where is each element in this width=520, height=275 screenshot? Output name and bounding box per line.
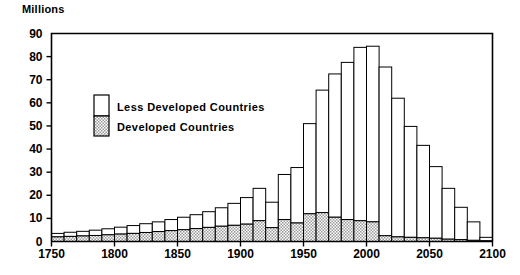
bar-1880 xyxy=(215,208,228,242)
bar-1780 xyxy=(89,230,102,241)
y-tick-label-50: 50 xyxy=(13,121,43,131)
bar-2050 xyxy=(430,167,443,242)
bar-segment-less-developed-1760 xyxy=(64,232,77,236)
bar-segment-less-developed-1950 xyxy=(304,124,317,214)
bar-1860 xyxy=(190,215,203,242)
bar-1960 xyxy=(316,90,329,241)
bar-segment-developed-1860 xyxy=(190,229,203,242)
bar-segment-less-developed-1880 xyxy=(215,208,228,226)
bar-1750 xyxy=(52,233,65,241)
bar-segment-less-developed-1830 xyxy=(152,222,165,232)
bars-group xyxy=(52,46,493,241)
bar-segment-developed-1850 xyxy=(178,230,191,242)
bar-segment-less-developed-1780 xyxy=(89,230,102,235)
x-tick-label-1850: 1850 xyxy=(155,248,201,260)
bar-segment-less-developed-2060 xyxy=(442,188,455,239)
bar-segment-developed-1810 xyxy=(127,233,140,241)
x-tick-label-1950: 1950 xyxy=(281,248,327,260)
bar-1830 xyxy=(152,222,165,242)
bar-segment-less-developed-1920 xyxy=(266,202,279,227)
bar-segment-less-developed-1850 xyxy=(178,217,191,229)
bar-2040 xyxy=(417,145,430,241)
bar-segment-developed-1950 xyxy=(304,214,317,242)
bar-1910 xyxy=(253,188,266,241)
bar-segment-developed-1790 xyxy=(102,235,115,242)
plot-area xyxy=(0,0,520,275)
bar-segment-less-developed-1750 xyxy=(52,233,65,236)
chart-figure: Millions 0102030405060708090 17501800185… xyxy=(0,0,520,275)
bar-2000 xyxy=(367,46,380,241)
bar-segment-less-developed-1800 xyxy=(115,227,128,234)
y-tick-label-60: 60 xyxy=(13,98,43,108)
y-tick-label-80: 80 xyxy=(13,52,43,62)
bar-2010 xyxy=(379,67,392,241)
bar-2080 xyxy=(467,222,480,242)
bar-segment-developed-1800 xyxy=(115,234,128,241)
x-tick-label-1800: 1800 xyxy=(92,248,138,260)
bar-1810 xyxy=(127,226,140,242)
bar-segment-developed-1780 xyxy=(89,235,102,241)
bar-segment-less-developed-2050 xyxy=(430,167,443,239)
bar-segment-less-developed-1990 xyxy=(354,47,367,220)
bar-segment-less-developed-1790 xyxy=(102,229,115,235)
bar-segment-less-developed-1810 xyxy=(127,226,140,234)
bar-1980 xyxy=(341,62,354,241)
legend-swatch xyxy=(92,94,116,142)
bar-1870 xyxy=(203,212,216,242)
bar-segment-developed-1900 xyxy=(241,224,254,241)
y-tick-label-20: 20 xyxy=(13,190,43,200)
bar-segment-less-developed-1940 xyxy=(291,168,304,223)
bar-segment-less-developed-1960 xyxy=(316,90,329,212)
bar-1930 xyxy=(278,174,291,241)
bar-1850 xyxy=(178,217,191,241)
x-tick-label-2100: 2100 xyxy=(470,248,516,260)
bar-2030 xyxy=(404,126,417,241)
bar-segment-less-developed-2010 xyxy=(379,67,392,236)
y-tick-label-0: 0 xyxy=(13,237,43,247)
bar-segment-less-developed-2040 xyxy=(417,145,430,237)
bar-1940 xyxy=(291,168,304,242)
y-tick-label-10: 10 xyxy=(13,213,43,223)
bar-1990 xyxy=(354,47,367,241)
bar-2060 xyxy=(442,188,455,241)
bar-segment-developed-1930 xyxy=(278,220,291,242)
bar-segment-less-developed-1890 xyxy=(228,203,241,225)
bar-segment-developed-1830 xyxy=(152,232,165,242)
bar-segment-developed-1840 xyxy=(165,231,178,242)
bar-segment-less-developed-1900 xyxy=(241,198,254,225)
bar-1760 xyxy=(64,232,77,241)
x-tick-label-2050: 2050 xyxy=(407,248,453,260)
x-tick-label-1900: 1900 xyxy=(218,248,264,260)
bar-segment-developed-1970 xyxy=(329,217,342,241)
bar-segment-less-developed-1870 xyxy=(203,212,216,228)
bar-2070 xyxy=(455,207,468,241)
bar-1790 xyxy=(102,229,115,242)
bar-segment-less-developed-1970 xyxy=(329,74,342,217)
x-tick-label-2000: 2000 xyxy=(344,248,390,260)
bar-segment-less-developed-1820 xyxy=(140,224,153,233)
bar-segment-less-developed-2000 xyxy=(367,46,380,222)
bar-segment-developed-1920 xyxy=(266,228,279,242)
bar-segment-less-developed-2020 xyxy=(392,98,405,237)
bar-segment-less-developed-1840 xyxy=(165,220,178,231)
y-tick-label-70: 70 xyxy=(13,75,43,85)
bar-segment-developed-1980 xyxy=(341,220,354,242)
bar-1770 xyxy=(77,231,90,241)
bar-1970 xyxy=(329,74,342,242)
bar-segment-developed-1910 xyxy=(253,221,266,242)
bar-segment-less-developed-1860 xyxy=(190,215,203,229)
bar-segment-less-developed-1930 xyxy=(278,174,291,219)
bar-segment-developed-1940 xyxy=(291,223,304,241)
bar-1950 xyxy=(304,124,317,242)
legend-swatch-developed xyxy=(94,116,109,136)
legend-label-less-developed: Less Developed Countries xyxy=(117,101,265,113)
x-tick-label-1750: 1750 xyxy=(29,248,75,260)
bar-segment-developed-2010 xyxy=(379,236,392,242)
legend-label-developed: Developed Countries xyxy=(117,121,235,133)
bar-segment-developed-1880 xyxy=(215,226,228,241)
bar-segment-developed-1890 xyxy=(228,225,241,241)
bar-segment-less-developed-2030 xyxy=(404,126,417,237)
bar-1820 xyxy=(140,224,153,242)
bar-1900 xyxy=(241,198,254,242)
bar-segment-less-developed-2080 xyxy=(467,222,480,240)
